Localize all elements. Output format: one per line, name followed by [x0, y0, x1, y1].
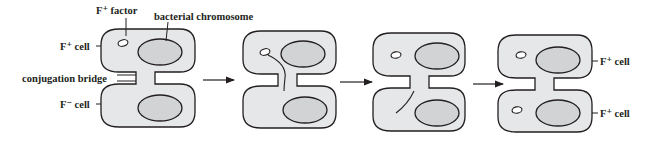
bacterial-chromosome-icon [415, 100, 459, 126]
bacterial-chromosome-icon [283, 97, 327, 123]
bacterial-chromosome-icon [415, 43, 459, 69]
f-plus-cell-right-top-label: F⁺ cell [600, 56, 630, 67]
stage-1-cell-pair [101, 29, 195, 127]
conjugation-diagram: F⁺ factor bacterial chromosome F⁺ cell c… [0, 0, 646, 141]
bacterial-chromosome-icon [536, 100, 580, 126]
conjugation-bridge-label: conjugation bridge [22, 73, 107, 84]
bacterial-chromosome-icon [281, 41, 325, 67]
bacterial-chromosome-icon [138, 95, 182, 121]
f-plus-factor-label: F⁺ factor [96, 5, 138, 16]
stage-4-cell-pair [498, 35, 592, 132]
stage-3-cell-pair [373, 33, 465, 131]
bacterial-chromosome-label: bacterial chromosome [154, 11, 254, 22]
bacterial-chromosome-icon [536, 47, 580, 73]
f-minus-cell-label: F⁻ cell [60, 99, 90, 110]
bacterial-chromosome-icon [138, 39, 182, 65]
f-plus-cell-label: F⁺ cell [60, 41, 90, 52]
stage-2-cell-pair [243, 31, 336, 128]
f-plus-cell-right-bottom-label: F⁺ cell [600, 108, 630, 119]
